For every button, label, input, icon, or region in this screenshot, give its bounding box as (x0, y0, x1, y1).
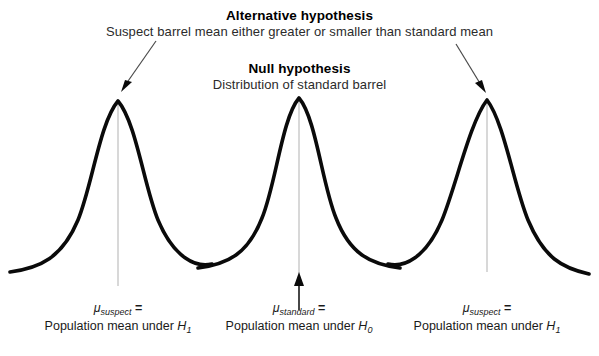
mu-expression: μsuspect = (387, 300, 587, 318)
equals-sign: = (318, 301, 325, 315)
equals-sign: = (135, 301, 142, 315)
mu-subscript: suspect (101, 307, 132, 317)
hypothesis-symbol-group: H1 (177, 319, 191, 333)
equals-sign: = (504, 301, 511, 315)
axis-label-description: Population mean under H1 (387, 318, 587, 336)
description-text: Population mean under (45, 319, 174, 333)
alternative-hypothesis-title: Alternative hypothesis (0, 8, 599, 23)
hypothesis-symbol-group: H0 (358, 319, 372, 333)
axis-label-suspect-right: μsuspect = Population mean under H1 (387, 300, 587, 335)
mu-expression: μstandard = (199, 300, 399, 318)
hypothesis-subscript: 1 (186, 324, 191, 334)
alternative-hypothesis-subtitle: Suspect barrel mean either greater or sm… (0, 25, 599, 40)
mu-symbol: μ (94, 301, 101, 315)
axis-label-description: Population mean under H0 (199, 318, 399, 336)
axis-label-standard: μstandard = Population mean under H0 (199, 300, 399, 335)
curve-suspect-left (10, 101, 212, 272)
mu-subscript: suspect (470, 307, 501, 317)
description-text: Population mean under (414, 319, 543, 333)
null-hypothesis-title: Null hypothesis (0, 61, 599, 76)
description-text: Population mean under (226, 319, 355, 333)
curve-suspect-right (388, 100, 589, 274)
hypothesis-subscript: 0 (367, 324, 372, 334)
mu-expression: μsuspect = (18, 300, 218, 318)
axis-label-suspect-left: μsuspect = Population mean under H1 (18, 300, 218, 335)
hypothesis-symbol-group: H1 (546, 319, 560, 333)
hypothesis-subscript: 1 (555, 324, 560, 334)
mu-symbol: μ (273, 301, 280, 315)
mu-subscript: standard (280, 307, 315, 317)
null-hypothesis-subtitle: Distribution of standard barrel (0, 78, 599, 93)
mu-symbol: μ (463, 301, 470, 315)
axis-label-description: Population mean under H1 (18, 318, 218, 336)
